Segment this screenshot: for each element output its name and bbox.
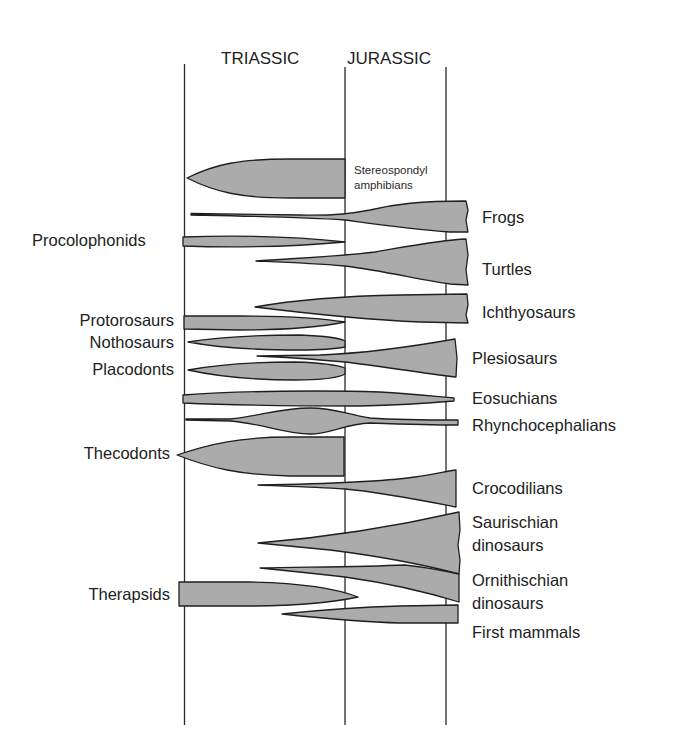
range-shape-nothosaurs <box>188 335 345 350</box>
label-rhynchocephalians: Rhynchocephalians <box>472 416 616 434</box>
range-shape-stereospondyl-amphibians <box>187 159 345 198</box>
label-eosuchians: Eosuchians <box>472 389 557 407</box>
label-nothosaurs: Nothosaurs <box>90 333 174 351</box>
range-shape-placodonts <box>188 362 345 380</box>
range-shape-rhynchocephalians <box>186 408 458 434</box>
label-plesiosaurs: Plesiosaurs <box>472 349 557 367</box>
range-shape-eosuchians <box>183 391 454 406</box>
label-ornithischian-dinosaurs: dinosaurs <box>472 594 544 612</box>
label-amphibians: amphibians <box>354 179 413 191</box>
range-shape-therapsids <box>179 582 358 606</box>
label-saurischian: Saurischian <box>472 513 558 531</box>
range-shape-protorosaurs <box>184 316 345 330</box>
label-crocodilians: Crocodilians <box>472 479 563 497</box>
period-label-triassic: TRIASSIC <box>221 49 299 68</box>
range-shape-thecodonts <box>177 437 344 476</box>
label-procolophonids: Procolophonids <box>32 231 146 249</box>
label-turtles: Turtles <box>482 260 532 278</box>
label-thecodonts: Thecodonts <box>84 444 170 462</box>
label-frogs: Frogs <box>482 208 524 226</box>
range-shape-saurischian-dinosaurs <box>258 512 460 574</box>
label-placodonts: Placodonts <box>92 360 174 378</box>
label-ornithischian: Ornithischian <box>472 571 568 589</box>
label-stereospondyl: Stereospondyl <box>354 164 428 176</box>
label-ichthyosaurs: Ichthyosaurs <box>482 303 576 321</box>
range-shape-frogs <box>191 201 468 232</box>
range-shape-procolophonids <box>183 236 345 247</box>
period-label-jurassic: JURASSIC <box>347 49 431 68</box>
label-first-mammals: First mammals <box>472 623 580 641</box>
range-shape-first-mammals <box>282 605 458 623</box>
label-therapsids: Therapsids <box>88 585 170 603</box>
label-protorosaurs: Protorosaurs <box>80 311 174 329</box>
evolutionary-range-diagram: TRIASSIC JURASSIC Stereospondyl amphibia… <box>0 0 685 753</box>
label-saurischian-dinosaurs: dinosaurs <box>472 536 544 554</box>
